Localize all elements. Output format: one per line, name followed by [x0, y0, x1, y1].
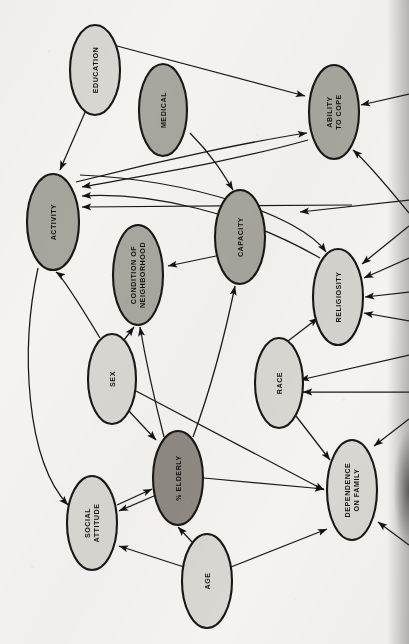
edge-offscreen-dependence-a	[374, 419, 409, 446]
edge-offscreen-stray-c	[300, 200, 409, 212]
edge-capacity-condition	[168, 256, 216, 266]
node-label: ACTIVITY	[50, 204, 58, 241]
diagram-canvas: EDUCATIONMEDICALABILITYTO COPEACTIVITYCO…	[0, 0, 409, 644]
node-label: RACE	[276, 372, 284, 394]
edge-elderly-dependence	[204, 478, 324, 489]
node-label: SEX	[109, 371, 117, 387]
edge-age-dependence	[231, 529, 327, 567]
node-ability[interactable]: ABILITYTO COPE	[309, 65, 359, 159]
node-race[interactable]: RACE	[255, 338, 303, 428]
edge-medical-capacity	[190, 133, 233, 190]
node-label: RELIGIOSITY	[335, 272, 343, 323]
node-label: SOCIALATTITUDE	[84, 504, 101, 543]
node-dependence[interactable]: DEPENDENCEON FAMILY	[327, 440, 377, 540]
edge-elderly-condition	[140, 327, 164, 437]
node-religiosity[interactable]: RELIGIOSITY	[313, 249, 363, 345]
edge-age-social	[119, 546, 184, 567]
edge-race-religiosity	[288, 318, 318, 341]
node-capacity[interactable]: CAPACITY	[215, 190, 265, 284]
edge-offscreen-religiosity-a	[362, 226, 409, 264]
node-age[interactable]: AGE	[182, 534, 232, 628]
node-activity[interactable]: ACTIVITY	[27, 174, 79, 270]
edge-offscreen-ability-a	[361, 94, 409, 105]
edge-capacity-activity	[82, 205, 352, 207]
node-elderly[interactable]: % ELDERLY	[153, 431, 203, 525]
edge-sex-elderly	[128, 410, 156, 440]
edge-sex-activity	[56, 272, 100, 338]
node-label: DEPENDENCEON FAMILY	[344, 463, 361, 518]
edge-offscreen-religiosity-d	[364, 313, 409, 321]
edge-offscreen-religiosity-c	[365, 292, 409, 297]
node-layer: EDUCATIONMEDICALABILITYTO COPEACTIVITYCO…	[27, 25, 377, 628]
edge-offscreen-dependence-b	[378, 522, 409, 545]
edge-sex-condition	[124, 327, 134, 340]
node-sex[interactable]: SEX	[88, 334, 136, 424]
node-label: % ELDERLY	[175, 455, 183, 501]
scanned-figure: EDUCATIONMEDICALABILITYTO COPEACTIVITYCO…	[0, 0, 409, 644]
edge-race-dependence	[296, 416, 330, 460]
node-label: CONDITION OFNEIGHBORHOOD	[130, 242, 147, 308]
edge-age-elderly	[178, 527, 193, 543]
edge-elderly-capacity	[193, 286, 235, 437]
node-label: MEDICAL	[160, 92, 168, 128]
edge-offscreen-religiosity-b	[364, 258, 409, 278]
edge-elderly-social	[119, 496, 154, 511]
node-medical[interactable]: MEDICAL	[139, 64, 187, 156]
node-social[interactable]: SOCIALATTITUDE	[67, 476, 117, 570]
node-education[interactable]: EDUCATION	[70, 25, 120, 115]
edge-social-elderly	[117, 489, 152, 505]
edge-education-activity	[60, 110, 86, 170]
node-label: CAPACITY	[237, 217, 245, 257]
node-condition[interactable]: CONDITION OFNEIGHBORHOOD	[113, 225, 163, 325]
edge-activity-ability	[76, 133, 307, 182]
node-label: AGE	[204, 572, 212, 589]
edge-offscreen-stray-a	[300, 355, 409, 380]
edge-activity-social	[28, 268, 68, 505]
node-label: ABILITYTO COPE	[326, 94, 343, 130]
node-label: EDUCATION	[92, 47, 100, 94]
edge-ability-activity	[82, 140, 308, 187]
edge-ability-religiosity	[80, 175, 326, 252]
